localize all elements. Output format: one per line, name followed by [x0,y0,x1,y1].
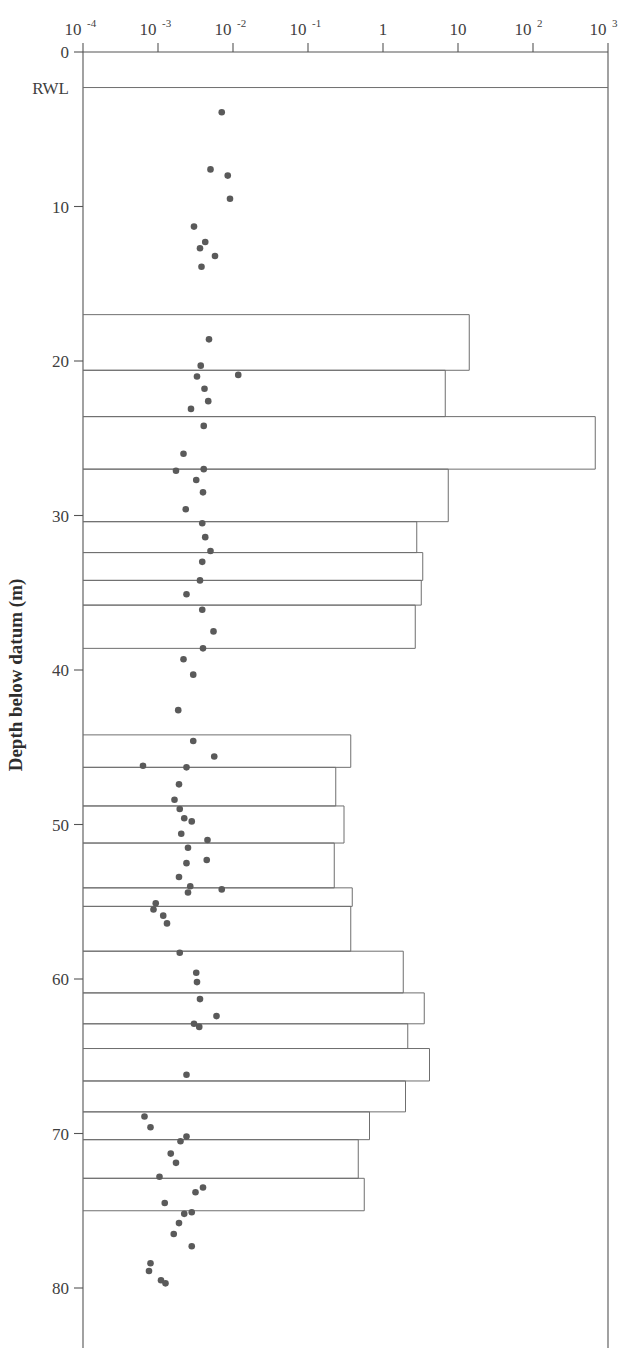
data-point-74 [161,1200,168,1207]
data-point-60 [197,996,204,1003]
x-tick-label-2: 10-2 [215,17,247,39]
data-point-7 [212,253,219,260]
svg-text:3: 3 [612,17,618,29]
data-point-18 [173,467,180,474]
data-point-10 [235,372,242,379]
bar-4 [83,522,417,553]
data-point-34 [175,707,182,714]
bar-21 [83,1178,364,1210]
svg-text:10: 10 [515,20,532,39]
data-point-42 [188,818,195,825]
x-axis-tick-labels: 10-410-310-210-1110102103 [65,17,619,39]
data-point-11 [197,362,204,369]
data-point-5 [202,239,209,246]
data-point-4 [191,223,198,230]
data-point-12 [194,373,201,380]
data-point-33 [190,671,197,678]
data-point-59 [194,979,201,986]
bar-20 [83,1140,358,1179]
data-point-49 [176,874,183,881]
svg-text:10: 10 [450,20,467,39]
data-point-1 [207,166,214,173]
y-tick-label-60: 60 [52,970,69,989]
bar-10 [83,806,344,843]
bar-2 [83,417,595,470]
data-point-37 [183,764,190,771]
bar-5 [83,553,423,581]
data-point-63 [196,1024,203,1031]
bar-1 [83,370,445,416]
data-point-54 [150,906,157,913]
data-point-15 [188,406,195,413]
data-point-28 [183,591,190,598]
data-point-80 [147,1260,154,1267]
axis-frame [74,43,608,1348]
data-point-70 [173,1160,180,1167]
data-point-9 [206,336,213,343]
data-point-41 [176,806,183,813]
x-tick-label-7: 103 [590,17,619,39]
y-tick-label-10: 10 [52,198,69,217]
data-point-67 [183,1133,190,1140]
data-point-62 [213,1013,220,1020]
data-point-51 [187,883,194,890]
data-point-30 [210,628,217,635]
data-point-45 [204,837,211,844]
data-point-71 [156,1173,163,1180]
bar-14 [83,951,403,993]
svg-text:-4: -4 [87,17,97,29]
point-series [140,109,242,1287]
data-point-66 [147,1124,154,1131]
data-point-76 [188,1209,195,1216]
data-point-75 [181,1211,188,1218]
data-point-77 [176,1220,183,1227]
bar-15 [83,993,424,1024]
data-point-25 [207,548,214,555]
bar-series [83,315,595,1211]
data-point-13 [201,386,208,393]
bar-8 [83,735,351,767]
data-point-78 [170,1231,177,1238]
data-point-32 [180,656,187,663]
data-point-22 [182,506,189,513]
data-point-20 [193,477,200,484]
data-point-23 [199,520,206,527]
svg-text:10: 10 [590,20,607,39]
svg-text:-1: -1 [312,17,321,29]
bar-16 [83,1024,408,1049]
data-point-24 [202,534,209,541]
data-point-43 [181,815,188,822]
svg-text:10: 10 [290,20,307,39]
chart-svg: 10-410-310-210-1110102103 0RWL1020304050… [0,0,622,1350]
data-point-53 [152,900,159,907]
data-point-8 [198,263,205,270]
svg-text:-2: -2 [237,17,246,29]
data-point-69 [167,1150,174,1157]
x-tick-label-5: 10 [450,20,467,39]
svg-text:2: 2 [537,17,543,29]
data-point-16 [200,423,207,430]
data-point-26 [199,559,206,566]
svg-text:10: 10 [65,20,82,39]
data-point-17 [180,450,187,457]
data-point-46 [185,844,192,851]
data-point-57 [176,949,183,956]
svg-text:Depth below datum (m): Depth below datum (m) [5,579,27,772]
data-point-40 [171,796,178,803]
y-tick-label-40: 40 [52,661,69,680]
bar-3 [83,469,448,522]
data-point-73 [192,1189,199,1196]
x-tick-label-3: 10-1 [290,17,322,39]
data-point-65 [141,1113,148,1120]
data-point-55 [160,912,167,919]
bar-18 [83,1081,406,1112]
data-point-56 [164,920,171,927]
y-tick-label-0: 0 [61,43,70,62]
bar-9 [83,767,336,806]
y-axis-tick-labels: 0RWL1020304050607080 [32,43,69,1298]
data-point-39 [176,781,183,788]
data-point-6 [197,245,204,252]
data-point-68 [177,1138,184,1145]
y-axis-title: Depth below datum (m) [5,579,27,772]
bar-12 [83,888,352,907]
